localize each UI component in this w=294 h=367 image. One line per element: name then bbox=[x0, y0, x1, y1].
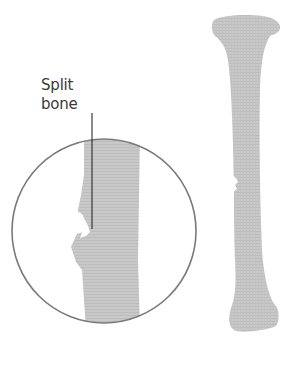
whole-bone bbox=[212, 15, 280, 332]
fracture-diagram: Split bone bbox=[0, 0, 294, 367]
callout-line-2: bone bbox=[41, 95, 78, 114]
diagram-graphics bbox=[0, 0, 294, 367]
callout-label-split-bone: Split bone bbox=[41, 76, 78, 114]
magnified-inset bbox=[12, 130, 196, 330]
callout-line-1: Split bbox=[41, 76, 78, 95]
magnified-bone-shaft bbox=[69, 130, 140, 330]
